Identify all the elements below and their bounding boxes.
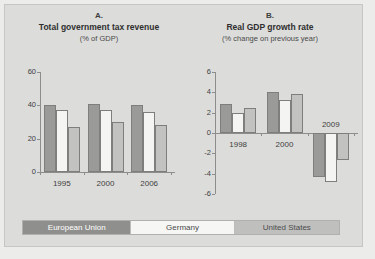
x-tick [215, 133, 216, 136]
bar [100, 110, 112, 173]
bar [232, 113, 244, 133]
chart-b-title: Real GDP growth rate [184, 21, 356, 33]
y-tick [212, 194, 215, 195]
bar [244, 108, 256, 133]
y-tick [212, 92, 215, 93]
chart-a-subtitle: (% of GDP) [14, 33, 184, 45]
bar [155, 125, 167, 172]
bar [131, 105, 143, 173]
x-tick [40, 172, 41, 175]
chart-a-y-axis [40, 72, 41, 172]
y-tick [212, 72, 215, 73]
y-tick [37, 139, 40, 140]
x-tick [308, 133, 309, 136]
x-tick-label: 1995 [42, 179, 82, 188]
bar [325, 133, 337, 182]
y-tick-label: -4 [183, 170, 211, 178]
x-tick [127, 172, 128, 175]
y-tick-label: 0 [183, 129, 211, 137]
y-tick-label: 2 [183, 109, 211, 117]
legend-item-united-states: United States [235, 221, 339, 234]
y-tick [37, 72, 40, 73]
y-tick [212, 174, 215, 175]
chart-b-panel-letter: B. [184, 10, 356, 21]
y-tick-label: 60 [8, 68, 36, 76]
bar [44, 105, 56, 172]
figure-root: A. Total government tax revenue (% of GD… [0, 0, 375, 259]
x-tick-label: 2000 [86, 179, 126, 188]
bar [88, 104, 100, 172]
y-tick-label: 40 [8, 101, 36, 109]
y-tick [212, 113, 215, 114]
y-tick-label: 20 [8, 135, 36, 143]
y-tick-label: 4 [183, 88, 211, 96]
bar [279, 100, 291, 133]
bar [112, 122, 124, 172]
bar [143, 112, 155, 172]
y-tick [37, 105, 40, 106]
bar [313, 133, 325, 177]
chart-annotation: 2009 [311, 120, 351, 129]
chart-legend: European Union Germany United States [22, 220, 340, 235]
chart-b-title-block: B. Real GDP growth rate (% change on pre… [184, 10, 356, 45]
x-tick [261, 133, 262, 136]
y-tick-label: 0 [8, 168, 36, 176]
x-tick-label: 1998 [218, 140, 258, 149]
chart-a-title-block: A. Total government tax revenue (% of GD… [14, 10, 184, 45]
bar [267, 92, 279, 133]
chart-titles-row: A. Total government tax revenue (% of GD… [0, 10, 375, 58]
chart-a-title: Total government tax revenue [14, 21, 184, 33]
chart-a-panel-letter: A. [14, 10, 184, 21]
legend-label-germany: Germany [166, 223, 199, 232]
legend-label-european-union: European Union [48, 223, 106, 232]
legend-label-united-states: United States [263, 223, 311, 232]
chart-b-plot-area: -6-4-20246 19982000 2009 [183, 72, 358, 197]
x-tick-label: 2000 [265, 140, 305, 149]
y-tick-label: -2 [183, 149, 211, 157]
legend-item-germany: Germany [130, 221, 234, 234]
chart-a-x-axis [40, 172, 175, 173]
x-tick [354, 133, 355, 136]
x-tick [171, 172, 172, 175]
bar [291, 94, 303, 133]
bar [220, 104, 232, 133]
chart-b-subtitle: (% change on previous year) [184, 33, 356, 45]
bar [68, 127, 80, 172]
chart-a-plot-area: 0204060 199520002006 [10, 72, 175, 197]
y-tick [212, 153, 215, 154]
y-tick-label: -6 [183, 190, 211, 198]
x-tick-label: 2006 [129, 179, 169, 188]
y-tick-label: 6 [183, 68, 211, 76]
bar [337, 133, 349, 160]
legend-item-european-union: European Union [23, 221, 130, 234]
x-tick [84, 172, 85, 175]
bar [56, 110, 68, 172]
